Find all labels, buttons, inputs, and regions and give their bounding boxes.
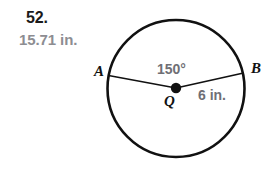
radius-length-label: 6 in. (198, 88, 226, 102)
center-point-dot (171, 83, 181, 93)
geometry-figure: 52. 15.71 in. A B Q 150° 6 in. (0, 0, 275, 171)
point-label-b: B (251, 61, 261, 76)
center-label-q: Q (164, 94, 175, 109)
central-angle-label: 150° (157, 62, 186, 76)
circle-diagram-svg (0, 0, 275, 171)
point-label-a: A (94, 64, 104, 79)
